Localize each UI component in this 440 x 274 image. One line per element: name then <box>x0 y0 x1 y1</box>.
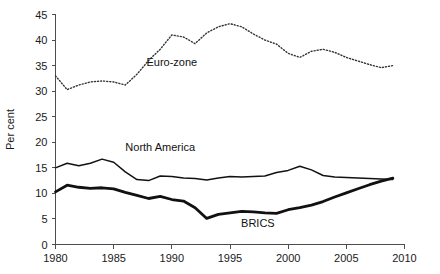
y-tick-label: 5 <box>41 213 47 225</box>
y-tick-label: 30 <box>35 85 47 97</box>
line-chart: 051015202530354045 198019851990199520002… <box>0 0 440 274</box>
x-tick-label: 1990 <box>160 252 184 264</box>
y-tick-label: 40 <box>35 34 47 46</box>
x-axis: 1980198519901995200020052010 <box>43 245 416 264</box>
chart-container: 051015202530354045 198019851990199520002… <box>0 0 440 274</box>
x-tick-label: 2000 <box>276 252 300 264</box>
x-tick-label: 1980 <box>43 252 67 264</box>
x-tick-label: 2005 <box>334 252 358 264</box>
series-label-1: North America <box>125 141 196 153</box>
x-tick-label: 1985 <box>101 252 125 264</box>
y-tick-label: 35 <box>35 60 47 72</box>
y-axis: 051015202530354045 <box>35 9 55 251</box>
y-tick-label: 20 <box>35 136 47 148</box>
y-axis-title-label: Per cent <box>4 109 16 150</box>
data-series-group <box>56 24 393 219</box>
series-label-2: BRICS <box>241 217 275 229</box>
x-tick-label: 1995 <box>218 252 242 264</box>
y-tick-label: 25 <box>35 111 47 123</box>
series-line-2 <box>56 178 393 218</box>
y-axis-title: Per cent <box>4 109 16 150</box>
series-line-1 <box>56 159 393 180</box>
series-annotations: Euro-zoneNorth AmericaBRICS <box>125 56 274 230</box>
y-tick-label: 10 <box>35 187 47 199</box>
x-tick-label: 2010 <box>392 252 416 264</box>
y-tick-label: 45 <box>35 9 47 21</box>
series-label-0: Euro-zone <box>146 56 197 68</box>
y-tick-label: 15 <box>35 162 47 174</box>
y-tick-label: 0 <box>41 239 47 251</box>
series-line-0 <box>56 24 393 90</box>
